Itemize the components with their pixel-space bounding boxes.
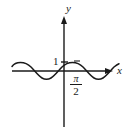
fraction-denominator-two: 2 (69, 86, 83, 97)
y-axis-label: y (66, 3, 71, 14)
fraction-numerator-pi: π (69, 74, 83, 84)
y-tick-label-one: 1 (53, 56, 59, 67)
x-axis-label: x (117, 65, 122, 76)
graph-figure: y x 1 π 2 (0, 0, 129, 134)
plot-canvas (0, 0, 129, 134)
y-axis-arrowhead (61, 16, 67, 24)
x-tick-label-pi-over-two: π 2 (69, 74, 83, 97)
